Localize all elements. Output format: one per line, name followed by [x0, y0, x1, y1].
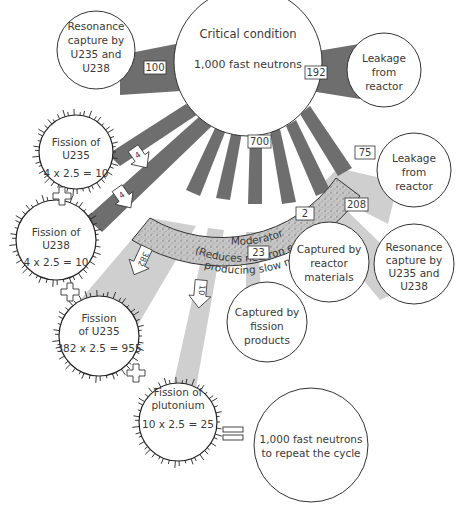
fission-u238-node: Fission of U238 4 x 2.5 = 10	[9, 194, 100, 287]
leakage-slow-label-1: Leakage	[392, 152, 436, 164]
fission-u235-slow-label-2: of U235	[78, 325, 119, 337]
source-node: Critical condition 1,000 fast neutrons	[174, 0, 322, 136]
flow-value-700: 700	[250, 136, 269, 147]
leakage-top-node: Leakage from reactor 192	[305, 33, 421, 107]
neutron-cycle-diagram: Moderator (Reduces neutron energy, produ…	[0, 0, 457, 510]
flow-value-208: 208	[347, 199, 366, 210]
fission-plutonium-label-1: Fission of	[154, 386, 203, 398]
moderator-inflow-badge: 700	[248, 135, 271, 148]
result-label-1: 1,000 fast neutrons	[260, 433, 363, 445]
reactor-materials-label-1: Captured by	[297, 243, 362, 255]
fission-products-badge: 23	[248, 246, 269, 259]
plus-icon	[127, 364, 145, 382]
flow-value-2: 2	[302, 208, 308, 219]
resonance-right-label-2: capture by	[386, 254, 442, 266]
resonance-left-label-3: U235 and	[71, 48, 122, 60]
resonance-left-label-2: capture by	[68, 34, 124, 46]
source-title: Critical condition	[199, 27, 296, 41]
fission-u238-label-2: U238	[42, 239, 70, 251]
resonance-right-label-4: U238	[400, 280, 428, 292]
result-label-2: to repeat the cycle	[261, 447, 360, 459]
resonance-right-label-3: U235 and	[389, 267, 440, 279]
fission-products-label-3: products	[244, 334, 290, 346]
fission-u235-fast-label-2: U235	[62, 149, 90, 161]
fission-u238-label-1: Fission of	[32, 226, 81, 238]
fission-plutonium-node: Fission of plutonium 10 x 2.5 = 25	[132, 377, 221, 468]
resonance-right-label-1: Resonance	[385, 241, 442, 253]
fission-u238-equation: 4 x 2.5 = 10	[23, 256, 88, 268]
leakage-slow-label-3: reactor	[395, 180, 433, 192]
reactor-materials-node: Captured by reactor materials	[289, 222, 369, 302]
flow-value-10: 10	[197, 285, 207, 296]
plus-icon	[61, 283, 79, 301]
result-node: 1,000 fast neutrons to repeat the cycle	[254, 388, 368, 502]
fission-u235-slow-label-1: Fission	[81, 312, 116, 324]
resonance-left-label-1: Resonance	[67, 20, 124, 32]
reactor-materials-badge: 2	[296, 207, 314, 220]
resonance-right-badge: 208	[345, 198, 368, 211]
fission-u235-fast-node: Fission of U235 4 x 2.5 = 10	[32, 109, 118, 196]
reactor-materials-label-3: materials	[304, 271, 353, 283]
leakage-top-label-3: reactor	[365, 80, 403, 92]
resonance-left-label-4: U238	[82, 62, 110, 74]
fission-u235-fast-label-1: Fission of	[52, 136, 101, 148]
flow-value-23: 23	[252, 247, 265, 258]
fission-products-label-2: fission	[250, 320, 284, 332]
leakage-slow-label-2: from	[402, 166, 426, 178]
flow-value-100: 100	[145, 62, 164, 73]
fission-u235-fast-equation: 4 x 2.5 = 10	[43, 167, 108, 179]
fission-u235-slow-equation: 382 x 2.5 = 955	[56, 342, 141, 354]
fission-plutonium-label-2: plutonium	[151, 399, 204, 411]
source-count: 1,000 fast neutrons	[194, 58, 302, 71]
fission-products-label-1: Captured by	[235, 306, 300, 318]
leakage-top-label-1: Leakage	[362, 52, 406, 64]
resonance-right-node: Resonance capture by U235 and U238	[374, 224, 454, 304]
leakage-top-label-2: from	[372, 66, 396, 78]
equals-icon	[223, 427, 243, 440]
fission-products-node: Captured by fission products	[227, 282, 307, 362]
fission-plutonium-equation: 10 x 2.5 = 25	[142, 418, 214, 430]
flow-value-75: 75	[359, 147, 372, 158]
reactor-materials-label-2: reactor	[310, 257, 348, 269]
flow-value-192: 192	[306, 67, 325, 78]
